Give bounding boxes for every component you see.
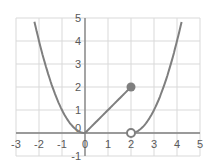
y-tick-label: 2	[75, 81, 81, 93]
x-tick-label: 5	[197, 138, 203, 150]
x-tick-label: -1	[57, 138, 67, 150]
curve-right-parabola	[135, 22, 182, 132]
y-tick-label: 1	[75, 104, 81, 116]
x-tick-label: 2	[128, 138, 134, 150]
x-tick-label: 3	[151, 138, 157, 150]
y-tick-label: 5	[75, 12, 81, 24]
x-tick-label: -2	[34, 138, 44, 150]
filled-endpoint	[127, 83, 136, 92]
open-endpoint	[127, 129, 135, 137]
x-tick-label: 4	[174, 138, 180, 150]
x-tick-label: 0	[82, 138, 88, 150]
piecewise-function-chart: -3-2-101234554321-10	[0, 0, 214, 166]
y-tick-label: -1	[71, 150, 81, 162]
x-tick-label: -3	[11, 138, 21, 150]
y-tick-label: 3	[75, 58, 81, 70]
y-tick-label: 4	[75, 35, 81, 47]
x-tick-label: 1	[105, 138, 111, 150]
